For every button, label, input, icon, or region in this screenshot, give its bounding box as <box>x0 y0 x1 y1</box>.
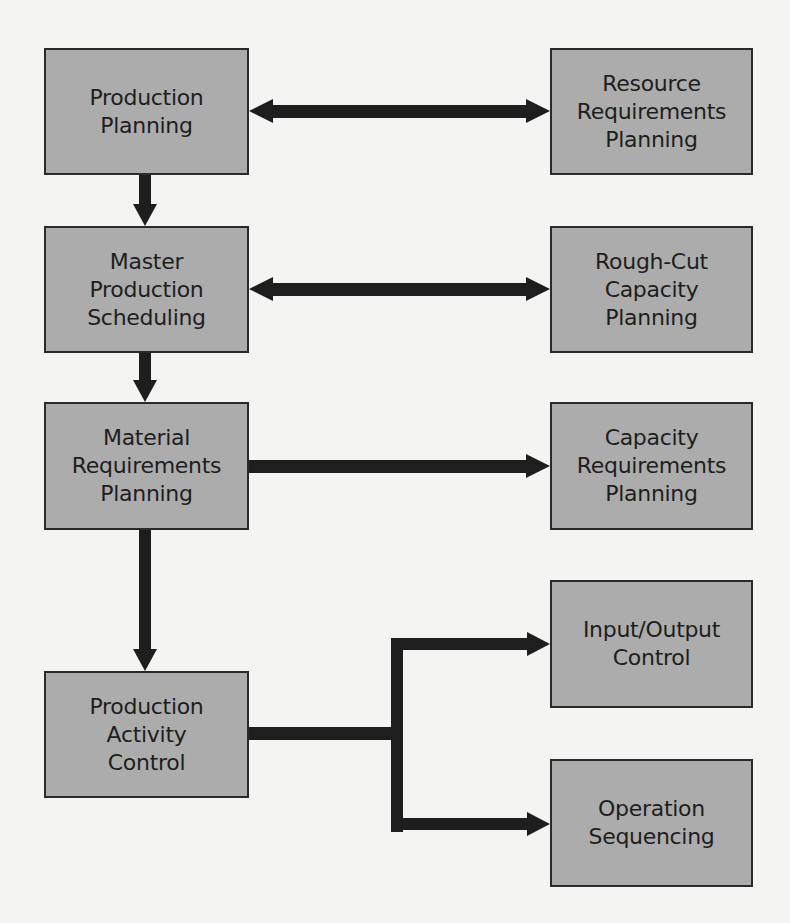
box-label-line: Rough-Cut <box>595 248 708 276</box>
box-label-line: Material <box>103 424 190 452</box>
bidirectional-arrow-mps-rccp <box>249 277 550 301</box>
box-label-line: Planning <box>605 480 697 508</box>
box-label-line: Planning <box>605 126 697 154</box>
box-label-line: Planning <box>100 112 192 140</box>
box-material-requirements-planning: Material Requirements Planning <box>44 402 249 530</box>
box-label-line: Requirements <box>72 452 221 480</box>
box-label-line: Scheduling <box>87 304 206 332</box>
box-master-production-scheduling: Master Production Scheduling <box>44 226 249 353</box>
box-label-line: Resource <box>602 70 701 98</box>
box-label-line: Planning <box>100 480 192 508</box>
arrow-mrp-pac <box>133 530 157 671</box>
box-label-line: Requirements <box>577 98 726 126</box>
box-label-line: Control <box>108 749 185 777</box>
box-capacity-requirements-planning: Capacity Requirements Planning <box>550 402 753 530</box>
box-label-line: Master <box>110 248 183 276</box>
box-label-line: Sequencing <box>588 823 714 851</box>
box-label-line: Input/Output <box>583 616 720 644</box>
branch-arrow-pac <box>248 632 550 836</box>
box-label-line: Capacity <box>605 276 699 304</box>
box-production-planning: Production Planning <box>44 48 249 175</box>
box-input-output-control: Input/Output Control <box>550 580 753 708</box>
box-label-line: Capacity <box>605 424 699 452</box>
arrow-mrp-crp <box>248 454 550 478</box>
arrow-mps-mrp <box>133 352 157 402</box>
box-label-line: Requirements <box>577 452 726 480</box>
box-label-line: Activity <box>107 721 187 749</box>
box-label-line: Planning <box>605 304 697 332</box>
box-label-line: Production <box>89 693 203 721</box>
box-label-line: Production <box>89 276 203 304</box>
box-label-line: Control <box>613 644 690 672</box>
box-production-activity-control: Production Activity Control <box>44 671 249 798</box>
arrow-pp-mps <box>133 174 157 226</box>
box-resource-requirements-planning: Resource Requirements Planning <box>550 48 753 175</box>
bidirectional-arrow-pp-rrp <box>249 99 550 123</box>
box-label-line: Production <box>89 84 203 112</box>
box-rough-cut-capacity-planning: Rough-Cut Capacity Planning <box>550 226 753 353</box>
box-operation-sequencing: Operation Sequencing <box>550 759 753 887</box>
box-label-line: Operation <box>598 795 705 823</box>
mrp-planning-hierarchy-diagram: Production Planning Master Production Sc… <box>0 0 790 923</box>
